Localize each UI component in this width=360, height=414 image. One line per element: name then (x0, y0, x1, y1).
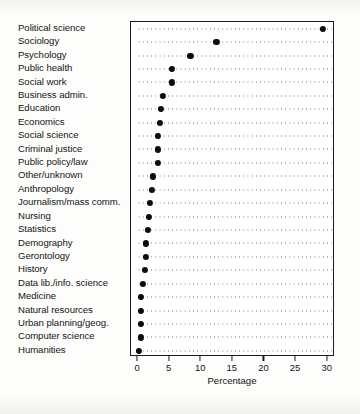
data-point-marker (138, 307, 144, 313)
data-point-marker (155, 133, 161, 139)
gridline-dotted (137, 109, 333, 110)
gridline-dotted (137, 310, 333, 311)
gridline-dotted (137, 283, 333, 284)
category-label: Political science (18, 21, 126, 34)
category-label: Humanities (18, 343, 126, 356)
category-label: Gerontology (18, 249, 126, 262)
data-row (131, 317, 333, 330)
gridline-dotted (137, 270, 333, 271)
category-label: History (18, 262, 126, 275)
data-point-marker (169, 79, 175, 85)
x-axis-tick-label: 25 (290, 362, 300, 373)
category-label: Urban planning/geog. (18, 316, 126, 329)
data-point-marker (187, 52, 193, 58)
data-point-marker (157, 120, 163, 126)
data-row (131, 76, 333, 89)
category-label: Statistics (18, 222, 126, 235)
category-label: Demography (18, 236, 126, 249)
data-row (131, 49, 333, 62)
x-axis-tick-label: 0 (134, 362, 139, 373)
x-axis-tick-label: 30 (321, 362, 331, 373)
data-point-marker (137, 334, 143, 340)
category-label: Criminal justice (18, 142, 126, 155)
gridline-dotted (137, 230, 333, 231)
data-point-marker (145, 227, 151, 233)
data-row (131, 156, 333, 169)
gridline-dotted (137, 136, 333, 137)
data-row (131, 237, 333, 250)
data-row (131, 210, 333, 223)
data-point-marker (160, 93, 166, 99)
data-row (131, 196, 333, 209)
gridline-dotted (137, 55, 333, 56)
gridline-dotted (137, 82, 333, 83)
data-point-marker (155, 146, 161, 152)
category-label: Data lib./info. science (18, 276, 126, 289)
category-label: Sociology (18, 34, 126, 47)
gridline-dotted (137, 28, 333, 29)
x-axis-tick-label: 5 (166, 362, 171, 373)
data-row (131, 143, 333, 156)
category-label: Business admin. (18, 88, 126, 101)
gridline-dotted (137, 337, 333, 338)
category-label: Anthropology (18, 182, 126, 195)
data-row (131, 264, 333, 277)
dot-plot-chart: Political scienceSociologyPsychologyPubl… (0, 0, 360, 414)
x-axis-tick (168, 356, 169, 361)
x-axis-tick (295, 356, 296, 361)
data-point-marker (137, 321, 143, 327)
data-point-marker (138, 294, 144, 300)
gridline-dotted (137, 68, 333, 69)
x-axis-tick (326, 356, 327, 361)
x-axis-tick-label: 15 (227, 362, 237, 373)
data-row (131, 290, 333, 303)
data-point-marker (149, 187, 155, 193)
data-point-marker (142, 254, 148, 260)
category-axis-labels: Political scienceSociologyPsychologyPubl… (18, 21, 126, 356)
data-point-marker (155, 160, 161, 166)
data-point-marker (147, 200, 153, 206)
data-row (131, 103, 333, 116)
x-axis-tick (200, 356, 201, 361)
category-label: Medicine (18, 289, 126, 302)
category-label: Nursing (18, 209, 126, 222)
category-label: Social science (18, 128, 126, 141)
x-axis-title: Percentage (130, 375, 334, 386)
gridline-dotted (137, 122, 333, 123)
category-label: Public health (18, 61, 126, 74)
data-point-marker (146, 213, 152, 219)
data-row (131, 62, 333, 75)
data-point-marker (140, 281, 146, 287)
data-row (131, 183, 333, 196)
category-label: Natural resources (18, 303, 126, 316)
gridline-dotted (137, 42, 333, 43)
data-row (131, 35, 333, 48)
gridline-dotted (137, 149, 333, 150)
category-label: Social work (18, 75, 126, 88)
category-label: Education (18, 101, 126, 114)
x-axis-tick (231, 356, 232, 361)
x-axis-tick (263, 356, 264, 361)
data-point-marker (142, 267, 148, 273)
data-point-marker (158, 106, 164, 112)
x-axis-tick-label: 20 (258, 362, 268, 373)
category-label: Public policy/law (18, 155, 126, 168)
data-row (131, 223, 333, 236)
chart-page: Political scienceSociologyPsychologyPubl… (0, 0, 360, 414)
category-label: Journalism/mass comm. (18, 195, 126, 208)
x-axis-tick-label: 10 (195, 362, 205, 373)
plot-area (130, 21, 334, 356)
data-point-marker (143, 240, 149, 246)
data-point-marker (149, 173, 155, 179)
data-row (131, 277, 333, 290)
gridline-dotted (137, 243, 333, 244)
gridline-dotted (137, 216, 333, 217)
gridline-dotted (137, 350, 333, 351)
data-row (131, 129, 333, 142)
data-point-marker (136, 348, 142, 354)
data-point-marker (320, 26, 326, 32)
category-label: Other/unknown (18, 168, 126, 181)
data-row (131, 170, 333, 183)
category-label: Economics (18, 115, 126, 128)
gridline-dotted (137, 176, 333, 177)
